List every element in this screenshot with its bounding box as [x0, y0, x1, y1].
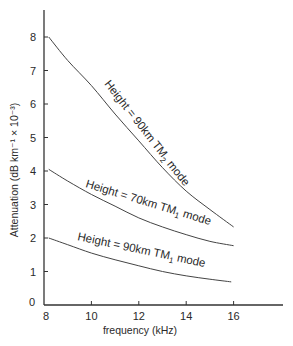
curve-labels: Height = 90km TM2 modeHeight = 70km TM1 … — [76, 78, 213, 272]
y-tick-label: 2 — [30, 232, 36, 244]
y-tick-label: 3 — [30, 199, 36, 211]
y-tick-label: 8 — [30, 31, 36, 43]
x-axis-label: frequency (kHz) — [103, 324, 177, 336]
x-axis-ticks: 810121416 — [43, 301, 240, 322]
y-tick-label: 7 — [30, 65, 36, 77]
y-tick-label: 5 — [30, 132, 36, 144]
y-tick-label: 1 — [30, 266, 36, 278]
curve-label: Height = 90km TM2 mode — [100, 78, 192, 190]
curve-label: Height = 90km TM1 mode — [76, 230, 207, 272]
x-tick-label: 14 — [180, 310, 192, 322]
x-tick-label: 8 — [43, 310, 49, 322]
y-tick-label: 4 — [30, 165, 36, 177]
y-axis-label: Attenuation (dB km⁻¹ × 10⁻³) — [8, 103, 20, 238]
x-tick-label: 16 — [227, 310, 239, 322]
y-tick-label: 6 — [30, 98, 36, 110]
x-tick-label: 10 — [85, 310, 97, 322]
y-tick-label: 0 — [29, 296, 35, 308]
y-axis-ticks: 012345678 — [29, 31, 48, 308]
curve-70km-tm1 — [49, 169, 234, 245]
attenuation-chart: 012345678 810121416 Attenuation (dB km⁻¹… — [0, 0, 293, 346]
x-tick-label: 12 — [133, 310, 145, 322]
